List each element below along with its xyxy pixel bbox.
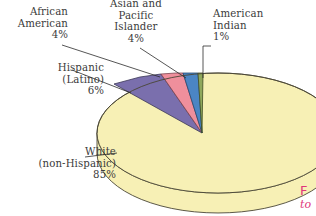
slice-label-line: Indian bbox=[213, 20, 263, 32]
slice-label-african-american: African American 4% bbox=[18, 6, 68, 41]
slice-label-line: (Latino) bbox=[58, 74, 104, 86]
slice-label-asian-pacific: Asian and Pacific Islander Asian and Pac… bbox=[110, 0, 162, 44]
slice-label-line: Asian and bbox=[110, 0, 162, 10]
slice-label-line: Pacific bbox=[110, 10, 162, 22]
slice-label-value: 85% bbox=[38, 169, 116, 181]
figure-caption-italic-fragment: to bbox=[300, 199, 311, 211]
slice-label-value: 1% bbox=[213, 31, 263, 43]
slice-label-value: 4% bbox=[110, 33, 162, 45]
slice-label-line: African bbox=[18, 6, 68, 18]
figure-caption-letter: F bbox=[300, 183, 307, 198]
slice-label-hispanic: Hispanic (Latino) 6% bbox=[58, 62, 104, 97]
slice-label-value: 4% bbox=[18, 29, 68, 41]
chart-canvas: African American 4% Asian and Pacific Is… bbox=[0, 0, 316, 216]
slice-label-line: American bbox=[18, 18, 68, 30]
slice-label-american-indian: American Indian 1% bbox=[213, 8, 263, 43]
figure-caption-fragment: F to bbox=[300, 184, 311, 211]
slice-label-line: Islander bbox=[110, 21, 162, 33]
slice-label-line: American bbox=[213, 8, 263, 20]
slice-label-line: White bbox=[38, 146, 116, 158]
slice-label-line: Hispanic bbox=[58, 62, 104, 74]
slice-label-white: White (non-Hispanic) 85% bbox=[38, 146, 116, 181]
slice-label-line: (non-Hispanic) bbox=[38, 158, 116, 170]
slice-label-value: 6% bbox=[58, 85, 104, 97]
